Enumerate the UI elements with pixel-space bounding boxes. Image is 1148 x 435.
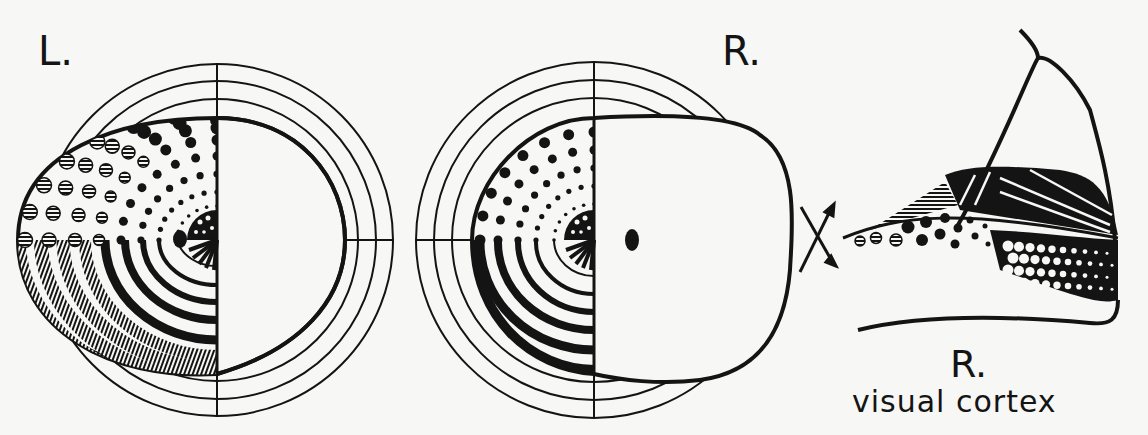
right-eye-label: R. xyxy=(722,28,761,74)
visual-cortex-diagram xyxy=(843,30,1118,330)
left-blind-spot xyxy=(173,230,187,248)
left-eye-label: L. xyxy=(38,28,73,74)
right-blind-spot xyxy=(625,229,639,251)
diagram-stage: L. R. R. visual cortex xyxy=(0,0,1148,435)
cortex-side-label: R. xyxy=(950,342,987,386)
chiasm-cross-arrows-icon xyxy=(800,204,836,272)
visual-cortex-label: visual cortex xyxy=(852,384,1057,419)
left-eye-field xyxy=(18,64,395,416)
right-eye-field xyxy=(416,62,792,418)
